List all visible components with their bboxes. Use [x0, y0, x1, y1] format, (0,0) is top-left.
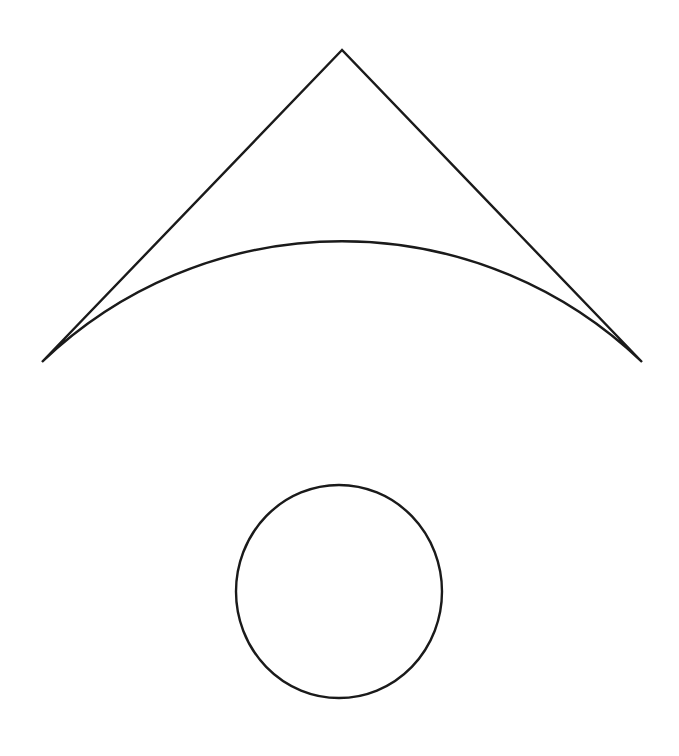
figure-canvas: [0, 0, 679, 756]
canvas-background: [0, 0, 679, 756]
geometric-figure-svg: [0, 0, 679, 756]
